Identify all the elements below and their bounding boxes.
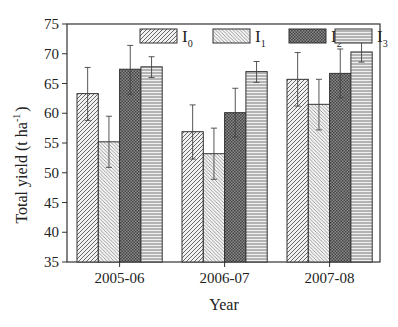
bar-I0-2007-08 — [287, 79, 308, 262]
y-axis-title-superscript: -1 — [11, 114, 22, 122]
legend: I0I1I2I3 — [140, 27, 388, 49]
legend-label: I0 — [182, 27, 193, 49]
legend-item-I1: I1 — [213, 27, 266, 49]
y-tick-label: 65 — [44, 76, 59, 92]
y-tick-label: 50 — [44, 165, 59, 181]
legend-swatch — [140, 29, 177, 43]
x-tick-label: 2006-07 — [200, 270, 250, 286]
y-tick-label: 55 — [44, 135, 59, 151]
y-tick-label: 35 — [44, 254, 59, 270]
bar-I2-2005-06 — [120, 69, 141, 262]
legend-label: I1 — [255, 27, 266, 49]
svg-text:Total yield (t ha-1): Total yield (t ha-1) — [11, 106, 31, 223]
y-tick-label: 45 — [44, 195, 59, 211]
y-tick-label: 70 — [44, 46, 59, 62]
y-axis-title: Total yield (t ha-1) — [11, 106, 31, 223]
y-axis-title-close: ) — [13, 106, 31, 111]
y-axis: 354045505560657075 — [44, 16, 67, 270]
legend-item-I2: I2 — [289, 27, 342, 49]
legend-label: I3 — [377, 27, 388, 49]
y-axis-title-main: Total yield (t ha — [13, 122, 31, 224]
legend-swatch — [213, 29, 250, 43]
y-tick-label: 75 — [44, 16, 59, 32]
x-axis-title: Year — [209, 296, 239, 313]
bars-group — [77, 52, 372, 262]
bar-I3-2005-06 — [141, 67, 162, 262]
legend-item-I0: I0 — [140, 27, 193, 49]
y-tick-label: 40 — [44, 224, 59, 240]
bar-I3-2006-07 — [246, 72, 267, 262]
legend-swatch — [335, 29, 372, 43]
legend-swatch — [289, 29, 326, 43]
x-tick-label: 2007-08 — [305, 270, 355, 286]
bar-chart: 354045505560657075 2005-062006-072007-08… — [0, 0, 398, 327]
x-axis: 2005-062006-072007-08 — [95, 262, 355, 286]
bar-I2-2007-08 — [330, 73, 351, 262]
x-tick-label: 2005-06 — [95, 270, 145, 286]
bar-I3-2007-08 — [351, 52, 372, 262]
y-tick-label: 60 — [44, 105, 59, 121]
